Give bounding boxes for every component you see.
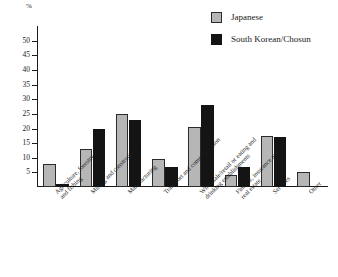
y-axis-tick-label-wrap: 50 bbox=[4, 37, 30, 45]
y-axis-tick-label: 35 bbox=[6, 81, 30, 89]
bar-group bbox=[152, 26, 178, 187]
y-axis-tick-label-wrap: 15 bbox=[4, 139, 30, 147]
y-axis-tick bbox=[32, 41, 37, 42]
y-axis-tick-label: 15 bbox=[6, 139, 30, 147]
y-axis-tick-label: 25 bbox=[6, 110, 30, 118]
legend-swatch-south-korean-chosun bbox=[211, 34, 222, 45]
y-axis-tick bbox=[32, 114, 37, 115]
y-axis-tick-label-wrap: 35 bbox=[4, 81, 30, 89]
y-axis-tick bbox=[32, 143, 37, 144]
y-axis-tick bbox=[32, 129, 37, 130]
y-axis-tick-label-wrap: 10 bbox=[4, 154, 30, 162]
y-axis-tick-label: 30 bbox=[6, 95, 30, 103]
y-axis-tick-label-wrap: 5 bbox=[4, 168, 30, 176]
bar-japanese bbox=[297, 172, 310, 187]
legend-swatch-japanese bbox=[211, 12, 222, 23]
y-axis-tick-label-wrap: 25 bbox=[4, 110, 30, 118]
y-axis-tick-label: 10 bbox=[6, 154, 30, 162]
legend-item-south-korean-chosun: South Korean/Chosun bbox=[211, 34, 311, 45]
y-axis-tick-label-wrap: 45 bbox=[4, 51, 30, 59]
bar-group bbox=[43, 26, 69, 187]
y-axis-tick bbox=[32, 172, 37, 173]
y-axis-tick bbox=[32, 158, 37, 159]
y-axis-tick-label-wrap: 40 bbox=[4, 66, 30, 74]
y-axis-tick-label-wrap: 30 bbox=[4, 95, 30, 103]
y-axis-tick bbox=[32, 55, 37, 56]
y-axis-tick-label: 45 bbox=[6, 51, 30, 59]
bar-japanese bbox=[116, 114, 129, 187]
y-axis-tick bbox=[32, 70, 37, 71]
bar-chart: % 5045403530252015105 Agriculture, fores… bbox=[0, 0, 338, 277]
chart-legend: Japanese South Korean/Chosun bbox=[211, 12, 311, 56]
y-axis-unit-label: % bbox=[26, 3, 32, 10]
y-axis-tick-label: 20 bbox=[6, 125, 30, 133]
bar-japanese bbox=[43, 164, 56, 187]
y-axis-tick-label: 50 bbox=[6, 37, 30, 45]
y-axis-tick-label: 40 bbox=[6, 66, 30, 74]
y-axis-tick-label: 5 bbox=[6, 168, 30, 176]
y-axis-tick bbox=[32, 85, 37, 86]
legend-item-japanese: Japanese bbox=[211, 12, 311, 23]
y-axis-tick bbox=[32, 99, 37, 100]
legend-label-japanese: Japanese bbox=[231, 13, 263, 22]
y-axis-tick-label-wrap: 20 bbox=[4, 125, 30, 133]
legend-label-south-korean-chosun: South Korean/Chosun bbox=[231, 35, 311, 44]
